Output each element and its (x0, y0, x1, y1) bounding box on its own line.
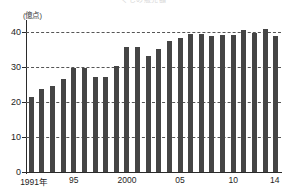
bar-2008 (209, 36, 214, 172)
bar-1996 (82, 68, 87, 172)
bar-1994 (61, 79, 66, 172)
y-tick-label-20: 20 (11, 97, 21, 107)
x-tick-label-2005: 05 (175, 175, 184, 185)
bar-2004 (167, 41, 172, 172)
x-tick-label-2014: 14 (270, 175, 279, 185)
y-axis-unit-label: (億点) (23, 9, 42, 20)
bar-1999 (114, 66, 119, 172)
bar-2012 (252, 33, 257, 172)
bar-2006 (188, 34, 193, 172)
y-tick-mark-40 (22, 32, 26, 33)
y-tick-label-10: 10 (11, 132, 21, 142)
bar-1992 (39, 89, 44, 172)
bar-1997 (93, 77, 98, 172)
y-tick-mark-0 (22, 172, 26, 173)
bar-2001 (135, 47, 140, 172)
y-tick-mark-20 (22, 102, 26, 103)
bar-2000 (124, 47, 129, 172)
bar-1995 (71, 68, 76, 172)
bar-1998 (103, 77, 108, 172)
plot-area (26, 22, 281, 172)
x-tick-label-2000: 2000 (117, 175, 136, 185)
bar-2009 (220, 35, 225, 172)
bar-2011 (241, 30, 246, 172)
bar-2010 (231, 35, 236, 172)
y-tick-mark-30 (22, 67, 26, 68)
bar-2003 (156, 49, 161, 172)
bar-2002 (146, 56, 151, 172)
bar-1993 (50, 86, 55, 173)
bar-2013 (263, 29, 268, 172)
y-axis-tick-labels: 010203040 (0, 0, 21, 192)
x-tick-label-1995: 95 (69, 175, 78, 185)
bar-1991 (29, 97, 34, 172)
x-tick-label-2010: 10 (228, 175, 237, 185)
bar-chart: くじの販売額 (億点) 010203040 1991年952000051014 (0, 0, 287, 192)
y-tick-label-30: 30 (11, 62, 21, 72)
bar-2014 (273, 36, 278, 172)
bar-2007 (199, 34, 204, 172)
chart-title: くじの販売額 (0, 0, 287, 3)
bar-2005 (178, 38, 183, 172)
x-axis-line (23, 172, 282, 173)
y-tick-mark-10 (22, 137, 26, 138)
y-tick-label-40: 40 (11, 27, 21, 37)
x-tick-label-1991: 1991年 (20, 175, 48, 187)
